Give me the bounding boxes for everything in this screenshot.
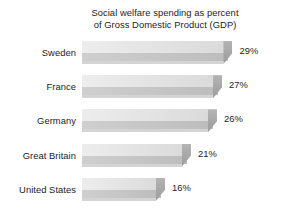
bar-base-shadow xyxy=(82,164,182,167)
bar-row: Great Britain21% xyxy=(0,141,308,175)
bar-top-face xyxy=(82,75,222,87)
bar-front-face xyxy=(82,156,187,164)
plot-area: Sweden29%France27%Germany26%Great Britai… xyxy=(0,38,308,209)
bar-front-face xyxy=(82,53,228,61)
category-label: France xyxy=(0,81,76,92)
bar xyxy=(82,178,165,201)
chart-title: Social welfare spending as percent of Gr… xyxy=(60,7,270,32)
category-label: Sweden xyxy=(0,47,76,58)
bar-front-face xyxy=(82,87,218,95)
bar-row: United States16% xyxy=(0,175,308,209)
bar xyxy=(82,41,232,64)
bar-base-shadow xyxy=(82,129,208,132)
value-label: 27% xyxy=(229,79,248,90)
category-label: Great Britain xyxy=(0,150,76,161)
bar-row: Sweden29% xyxy=(0,38,308,72)
value-label: 16% xyxy=(172,182,191,193)
bar-top-face xyxy=(82,109,217,121)
bar-base-shadow xyxy=(82,198,156,201)
bar-base-shadow xyxy=(82,95,213,98)
value-label: 26% xyxy=(224,113,243,124)
bar-front-face xyxy=(82,190,161,198)
bar-row: Germany26% xyxy=(0,106,308,140)
bar-front-face xyxy=(82,121,213,129)
bar-chart: Social welfare spending as percent of Gr… xyxy=(0,0,308,209)
bar-top-face xyxy=(82,144,191,156)
category-label: United States xyxy=(0,184,76,195)
bar-top-face xyxy=(82,178,165,190)
bar-top-face xyxy=(82,41,232,53)
bar-row: France27% xyxy=(0,72,308,106)
value-label: 21% xyxy=(198,148,217,159)
bar-base-shadow xyxy=(82,61,223,64)
bar xyxy=(82,75,222,98)
category-label: Germany xyxy=(0,115,76,126)
bar xyxy=(82,144,191,167)
bar xyxy=(82,109,217,132)
value-label: 29% xyxy=(239,45,258,56)
